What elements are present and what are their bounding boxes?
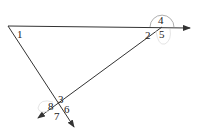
angle-label-1: 1 [17,28,23,40]
transversal-ray [38,27,162,118]
angle-label-7: 7 [54,110,60,122]
angle-label-4: 4 [158,14,164,26]
angle-diagram: 1 2 4 5 3 8 6 7 [0,0,199,140]
angle-label-6: 6 [64,103,70,115]
angle-label-2: 2 [145,29,151,41]
angle-label-5: 5 [159,28,165,40]
